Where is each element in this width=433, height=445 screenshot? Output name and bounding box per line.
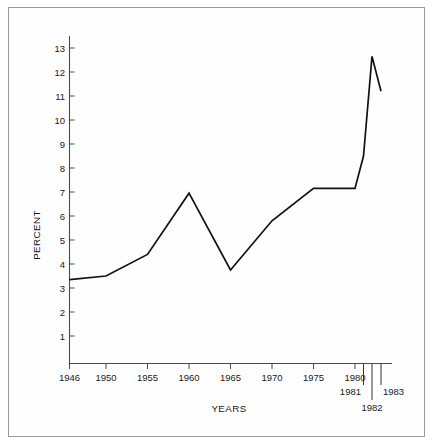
x-tickmarks	[70, 364, 356, 370]
x-tick-label-1983: 1983	[383, 386, 404, 397]
y-tick-label: 7	[60, 187, 65, 198]
x-tick-label: 1965	[220, 372, 241, 383]
x-axis-title: YEARS	[211, 403, 246, 414]
chart-figure: 13 12 11 10 9 8 7 6 5 4 3 2 1 PERCENT	[0, 0, 433, 445]
x-tick-label-1982: 1982	[361, 402, 382, 413]
y-tick-label: 5	[60, 235, 65, 246]
x-tick-label-1981: 1981	[340, 386, 361, 397]
y-tickmarks	[70, 48, 75, 336]
y-tick-label: 11	[55, 91, 65, 102]
y-tick-label: 12	[54, 67, 65, 78]
x-tick-leaders	[364, 364, 382, 401]
x-tick-labels: 1946 1950 1955 1960 1965 1970 1975 1980	[59, 372, 366, 383]
x-tick-label: 1960	[178, 372, 199, 383]
y-tick-label: 1	[60, 331, 65, 342]
percent-data-line	[70, 56, 382, 279]
x-tick-label: 1975	[303, 372, 324, 383]
y-tick-label: 3	[60, 283, 65, 294]
y-tick-label: 6	[60, 211, 65, 222]
y-tick-labels: 13 12 11 10 9 8 7 6 5 4 3 2 1	[54, 43, 65, 342]
x-tick-label: 1955	[137, 372, 158, 383]
line-chart-plot: 13 12 11 10 9 8 7 6 5 4 3 2 1 PERCENT	[0, 0, 433, 445]
y-tick-label: 10	[54, 115, 65, 126]
y-axis-title: PERCENT	[31, 210, 42, 260]
x-tick-label: 1950	[95, 372, 116, 383]
y-tick-label: 2	[60, 307, 65, 318]
y-tick-label: 9	[60, 139, 65, 150]
y-tick-label: 8	[60, 163, 65, 174]
x-tick-label: 1970	[261, 372, 282, 383]
x-tick-label: 1980	[344, 372, 365, 383]
y-tick-label: 13	[54, 43, 65, 54]
x-tick-label: 1946	[59, 372, 80, 383]
y-tick-label: 4	[60, 259, 65, 270]
